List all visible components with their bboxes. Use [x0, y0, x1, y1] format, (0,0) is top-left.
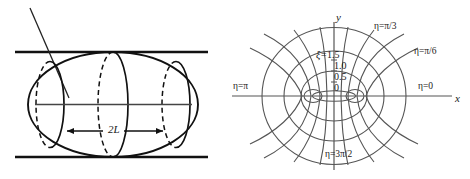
- xi-label-0: 0: [334, 83, 339, 93]
- eta-label-zero: η=0: [418, 82, 433, 92]
- xi-label-1-5: ξ=1.5: [316, 50, 340, 60]
- xi-value-1-5: 1.5: [327, 49, 340, 60]
- xi-label-0-5: 0.5: [334, 72, 347, 82]
- eta-label-three-pi-over-2: η=3π/2: [325, 150, 352, 160]
- eta-label-pi-over-6: η=π/6: [414, 47, 437, 57]
- xi-prefix-1-5: ξ=: [316, 49, 327, 60]
- dimension-label-2L: 2L: [108, 124, 120, 135]
- x-axis-label: x: [455, 93, 460, 104]
- figure-root: 2L y x ξ=1.5 1.0 0.5 0 η=π/3 η=π/6 η=0 η…: [0, 0, 470, 179]
- xi-label-1-0: 1.0: [334, 61, 347, 71]
- eta-label-pi: η=π: [233, 82, 248, 92]
- eta-label-pi-over-3: η=π/3: [374, 22, 397, 32]
- y-axis-label: y: [336, 12, 341, 23]
